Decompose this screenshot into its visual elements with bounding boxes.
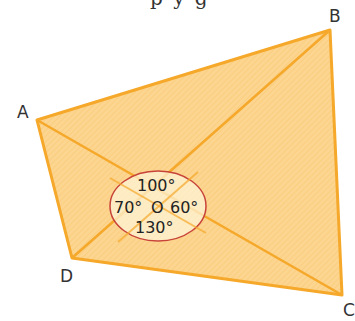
- vertex-label-d: D: [60, 268, 73, 285]
- center-label-o: O: [151, 200, 164, 216]
- angle-top-value: 100°: [137, 178, 176, 194]
- vertex-label-b: B: [329, 8, 341, 25]
- angle-bottom-value: 130°: [135, 220, 174, 236]
- angle-right-value: 60°: [170, 200, 198, 216]
- quadrilateral-abcd: [37, 30, 342, 295]
- angle-left-value: 70°: [114, 200, 142, 216]
- vertex-label-a: A: [17, 104, 29, 121]
- vertex-label-c: C: [343, 302, 355, 319]
